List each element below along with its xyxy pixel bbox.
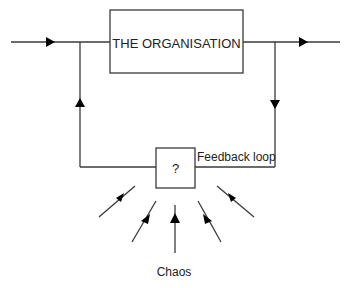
unknown-label: ?	[172, 161, 179, 176]
chaos-arrow-icon	[141, 214, 150, 224]
up-arrow-icon	[75, 98, 85, 107]
organisation-label: THE ORGANISATION	[112, 36, 240, 51]
down-arrow-icon	[270, 100, 280, 109]
feedback-loop-label: Feedback loop	[197, 150, 276, 164]
output-arrow-icon	[299, 37, 308, 47]
chaos-arrows	[99, 186, 254, 253]
organisation-feedback-diagram: THE ORGANISATION ? Feedback loop Chaos	[0, 0, 348, 288]
input-arrow-icon	[46, 37, 55, 47]
chaos-label: Chaos	[157, 265, 192, 279]
chaos-arrow-icon	[170, 213, 180, 223]
